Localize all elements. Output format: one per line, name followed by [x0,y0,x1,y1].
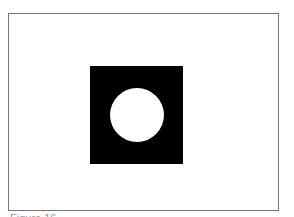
figure-caption: Figure 16 ... [10,213,69,217]
white-circle [110,88,164,142]
